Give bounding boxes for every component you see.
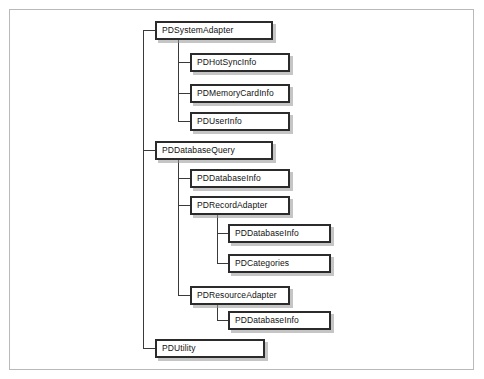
node-label: PDDatabaseQuery — [157, 146, 235, 155]
diagram-canvas: PDSystemAdapter PDHotSyncInfo PDMemoryCa… — [0, 0, 484, 379]
node-pdrecordadapter[interactable]: PDRecordAdapter — [190, 196, 290, 215]
node-label: PDHotSyncInfo — [192, 58, 256, 67]
node-label: PDUserInfo — [192, 117, 242, 126]
connector-pdrecordadapter-trunk — [217, 215, 218, 263]
connector-pdsystemadapter-trunk — [178, 40, 179, 122]
node-label: PDDatabaseInfo — [230, 316, 299, 325]
node-pdcategories[interactable]: PDCategories — [228, 254, 331, 273]
node-label: PDResourceAdapter — [192, 291, 277, 300]
node-label: PDRecordAdapter — [192, 201, 267, 210]
node-label: PDCategories — [230, 259, 289, 268]
node-label: PDDatabaseInfo — [230, 229, 299, 238]
node-label: PDUtility — [157, 344, 196, 353]
node-pdhotsyncinfo[interactable]: PDHotSyncInfo — [190, 53, 290, 72]
connector-pdresourceadapter-trunk — [217, 305, 218, 320]
node-label: PDSystemAdapter — [157, 26, 233, 35]
connector-pddatabasequery-trunk — [178, 160, 179, 295]
node-pdsystemadapter[interactable]: PDSystemAdapter — [155, 21, 273, 40]
connector-root-trunk — [143, 30, 144, 349]
node-pdutility[interactable]: PDUtility — [155, 339, 265, 358]
node-pdresourceadapter[interactable]: PDResourceAdapter — [190, 286, 290, 305]
node-pdmemorycardinfo[interactable]: PDMemoryCardInfo — [190, 84, 290, 103]
node-pddatabaseinfo-3[interactable]: PDDatabaseInfo — [228, 311, 331, 330]
node-pddatabaseinfo-1[interactable]: PDDatabaseInfo — [190, 169, 290, 188]
node-label: PDMemoryCardInfo — [192, 89, 274, 98]
node-label: PDDatabaseInfo — [192, 174, 261, 183]
node-pddatabasequery[interactable]: PDDatabaseQuery — [155, 141, 273, 160]
node-pddatabaseinfo-2[interactable]: PDDatabaseInfo — [228, 224, 331, 243]
node-pduserinfo[interactable]: PDUserInfo — [190, 112, 290, 131]
